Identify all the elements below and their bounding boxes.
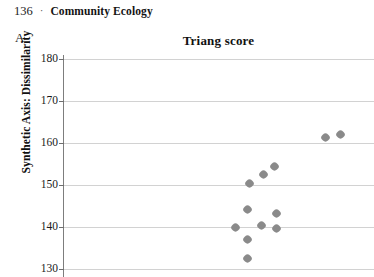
running-head: 136 · Community Ecology [14,4,153,19]
gridline-170 [63,101,374,102]
y-tick-label-160: 160 [18,137,58,149]
y-tick-160 [59,143,64,144]
running-head-separator: · [40,4,44,16]
data-point [243,205,253,215]
chart-title: Triang score [63,33,374,49]
data-point [272,209,282,219]
y-tick-label-180: 180 [18,53,58,65]
data-point [243,253,253,263]
y-tick-170 [59,101,64,102]
gridline-180 [63,59,374,60]
y-tick-150 [59,185,64,186]
y-tick-label-130: 130 [18,263,58,275]
running-head-title: Community Ecology [50,5,152,17]
data-point [256,221,266,231]
gridline-130 [63,269,374,270]
gridline-140 [63,227,374,228]
data-point [320,132,330,142]
data-point [272,224,282,234]
data-point [245,179,255,189]
y-tick-130 [59,269,64,270]
y-tick-180 [59,59,64,60]
y-axis-line [63,55,64,277]
y-axis-tick-labels: 180170160150140130 [12,55,58,277]
data-point [270,161,280,171]
data-point [336,130,346,140]
gridline-160 [63,143,374,144]
y-tick-140 [59,227,64,228]
y-tick-label-150: 150 [18,179,58,191]
gridline-150 [63,185,374,186]
y-tick-label-170: 170 [18,95,58,107]
data-point [243,234,253,244]
plot-area [63,55,374,277]
data-point [258,170,268,180]
data-point [231,223,241,233]
y-tick-label-140: 140 [18,221,58,233]
